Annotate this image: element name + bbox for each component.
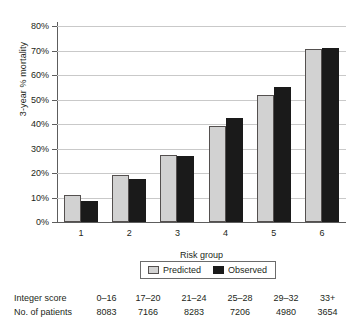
bar-predicted-group-4 — [209, 126, 226, 222]
y-tick-mark — [52, 198, 57, 199]
table-cell: 25–28 — [217, 292, 263, 306]
bar-predicted-group-1 — [64, 195, 81, 222]
x-tick-label: 2 — [127, 228, 132, 238]
table-row: Integer score0–1617–2021–2425–2829–3233+ — [14, 292, 346, 306]
legend-label: Observed — [228, 265, 267, 275]
bar-observed-group-2 — [129, 179, 146, 222]
y-tick-mark — [52, 26, 57, 27]
y-tick-mark — [52, 51, 57, 52]
y-tick-mark — [52, 149, 57, 150]
legend-swatch-observed-icon — [213, 266, 224, 274]
chart-legend: PredictedObserved — [140, 261, 276, 279]
x-tick-label: 6 — [319, 228, 324, 238]
bar-group — [64, 26, 98, 222]
x-axis-title: Risk group — [57, 250, 346, 260]
y-tick-label: 40% — [31, 119, 49, 129]
y-tick-label: 70% — [31, 46, 49, 56]
legend-swatch-predicted-icon — [148, 266, 159, 274]
legend-item-predicted[interactable]: Predicted — [148, 265, 201, 275]
legend-item-observed[interactable]: Observed — [213, 265, 267, 275]
table-row: No. of patients808371668283720649803654 — [14, 306, 346, 320]
bar-observed-group-6 — [322, 48, 339, 222]
risk-group-data-table: Integer score0–1617–2021–2425–2829–3233+… — [14, 292, 346, 320]
x-tick-label: 3 — [175, 228, 180, 238]
table-cell: 29–32 — [263, 292, 309, 306]
table-cell: 21–24 — [171, 292, 217, 306]
bar-predicted-group-3 — [160, 155, 177, 222]
y-tick-mark — [52, 100, 57, 101]
y-tick-label: 10% — [31, 193, 49, 203]
bar-observed-group-4 — [226, 118, 243, 222]
bar-predicted-group-2 — [112, 175, 129, 222]
bar-predicted-group-5 — [257, 95, 274, 222]
table-row-header: No. of patients — [14, 306, 88, 320]
y-tick-label: 20% — [31, 168, 49, 178]
bar-group — [305, 26, 339, 222]
y-tick-label: 80% — [31, 21, 49, 31]
table-row-header: Integer score — [14, 292, 88, 306]
y-axis-title: 3-year % mortality — [18, 4, 28, 154]
gridline — [57, 100, 346, 101]
bar-group — [112, 26, 146, 222]
table-cell: 33+ — [309, 292, 346, 306]
y-tick-label: 60% — [31, 70, 49, 80]
gridline — [57, 149, 346, 150]
x-tick-label: 1 — [79, 228, 84, 238]
y-tick-label: 30% — [31, 144, 49, 154]
gridline — [57, 51, 346, 52]
table-cell: 7206 — [217, 306, 263, 320]
table-cell: 8283 — [171, 306, 217, 320]
bar-observed-group-1 — [81, 201, 98, 222]
gridline — [57, 26, 346, 27]
gridline — [57, 173, 346, 174]
bar-group — [209, 26, 243, 222]
gridline — [57, 198, 346, 199]
chart-figure: 3-year % mortality 0%10%20%30%40%50%60%7… — [0, 0, 353, 329]
table-cell: 17–20 — [125, 292, 171, 306]
y-tick-label: 0% — [36, 217, 49, 227]
y-tick-mark — [52, 222, 57, 223]
bar-group — [160, 26, 194, 222]
table-cell: 8083 — [88, 306, 125, 320]
plot-area: 0%10%20%30%40%50%60%70%80% 123456 Risk g… — [57, 26, 346, 222]
bar-group — [257, 26, 291, 222]
bar-observed-group-5 — [274, 87, 291, 222]
table-cell: 3654 — [309, 306, 346, 320]
bar-observed-group-3 — [177, 156, 194, 222]
y-tick-mark — [52, 124, 57, 125]
y-tick-mark — [52, 75, 57, 76]
table-cell: 7166 — [125, 306, 171, 320]
y-axis-line — [57, 22, 58, 222]
table-cell: 0–16 — [88, 292, 125, 306]
y-tick-label: 50% — [31, 95, 49, 105]
table-cell: 4980 — [263, 306, 309, 320]
x-tick-label: 5 — [271, 228, 276, 238]
gridline — [57, 75, 346, 76]
gridline — [57, 222, 346, 223]
y-tick-mark — [52, 173, 57, 174]
bar-predicted-group-6 — [305, 49, 322, 222]
legend-label: Predicted — [163, 265, 201, 275]
x-tick-label: 4 — [223, 228, 228, 238]
gridline — [57, 124, 346, 125]
